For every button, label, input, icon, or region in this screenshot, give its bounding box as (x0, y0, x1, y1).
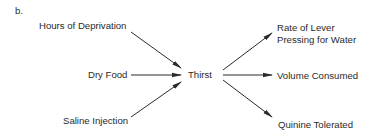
arrow-saline-to-thirst (131, 82, 181, 117)
output-lever-pressing-line1: Rate of Lever (277, 22, 335, 33)
input-saline-injection: Saline Injection (63, 115, 128, 126)
arrow-thirst-to-lever (223, 33, 272, 70)
output-volume-consumed: Volume Consumed (277, 70, 358, 81)
arrow-deprivation-to-thirst (131, 32, 181, 68)
input-dry-food: Dry Food (88, 69, 127, 80)
input-hours-of-deprivation: Hours of Deprivation (39, 20, 126, 31)
output-quinine-tolerated: Quinine Tolerated (278, 119, 353, 130)
output-lever-pressing-line2: Pressing for Water (277, 34, 356, 45)
arrow-thirst-to-quinine (223, 80, 272, 117)
center-node-thirst: Thirst (188, 69, 212, 80)
panel-label: b. (15, 5, 23, 16)
